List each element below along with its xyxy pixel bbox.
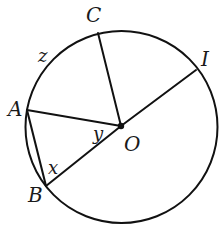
label-arc-z: z (37, 45, 48, 66)
segment-OA (27, 110, 121, 126)
label-point-A: A (6, 97, 22, 121)
segment-OI (121, 70, 196, 126)
segment-OC (98, 33, 121, 126)
label-point-B: B (27, 183, 43, 207)
label-point-I: I (200, 47, 210, 71)
label-angle-y: y (92, 123, 104, 144)
segment-AB (27, 110, 46, 186)
center-point-O (118, 123, 124, 129)
circle-diagram: C I A B O x y z (0, 0, 224, 225)
label-point-C: C (86, 3, 101, 27)
label-point-O: O (124, 132, 140, 156)
label-angle-x: x (48, 157, 58, 178)
